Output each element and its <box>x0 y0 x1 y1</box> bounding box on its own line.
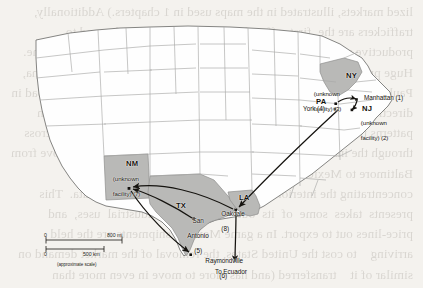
state-label-NY: NY <box>346 72 357 79</box>
state-label-TX: TX <box>176 202 186 209</box>
node-label-6-line1: Raymondville <box>205 257 243 264</box>
node-label-7-line1: (unknown <box>113 175 139 182</box>
node-label-york-4: York (4) <box>303 105 325 112</box>
node-label-unknown-facility-7: (unknown facility) (7) <box>103 168 140 205</box>
node-label-8-line2: (8) <box>221 225 229 232</box>
node-label-2-line1: (unknown <box>361 119 387 126</box>
node-label-unknown-facility-2: (unknown facility) (2) <box>351 112 388 149</box>
state-label-NM: NM <box>126 160 138 167</box>
node-label-2-line2: facility) (2) <box>361 134 388 141</box>
node-label-7-line2: facility) (7) <box>113 190 140 197</box>
node-label-5-line2: Antonio <box>187 232 208 239</box>
node-marker-1 <box>355 98 358 101</box>
scale-km-start: 0 <box>44 251 47 258</box>
node-label-oakdale-8: Oakdale (8) <box>211 203 245 240</box>
scale-km-end: 500 km <box>83 251 100 258</box>
node-marker-2 <box>351 109 354 112</box>
node-label-manhattan-1: Manhattan (1) <box>364 94 403 101</box>
scale-miles-start: 0 <box>44 232 47 239</box>
node-label-5-line1: San <box>193 217 204 224</box>
us-route-map: NY (unknown facility) (3) PA York (4) Ma… <box>0 0 423 288</box>
figure-map-container: lized markets, illustrated in the maps u… <box>0 0 423 288</box>
state-label-LA: LA <box>239 194 250 201</box>
scale-approximate-note: (approximate scale) <box>57 261 96 268</box>
node-label-8-line1: Oakdale <box>221 210 244 217</box>
scale-miles-end: 800 mi <box>107 232 122 239</box>
destination-label-to-ecuador: To Ecuador <box>215 268 247 275</box>
